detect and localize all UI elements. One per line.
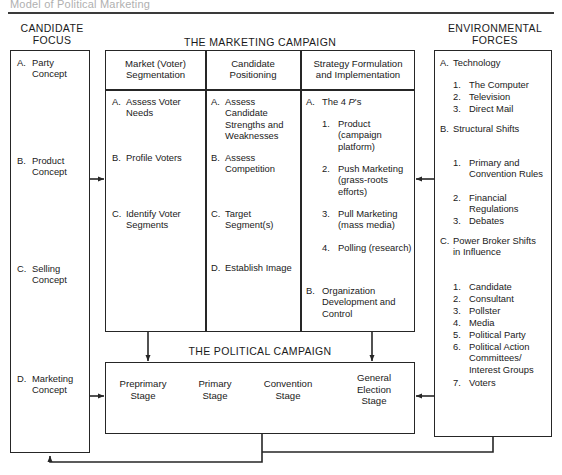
stage-general-election: General Election Stage bbox=[344, 372, 404, 407]
env-group-b-sub-2-label: 2. bbox=[453, 192, 461, 203]
candidate-positioning-item-d-label: D. bbox=[211, 262, 220, 273]
stage-preprimary-line2: Stage bbox=[110, 390, 176, 402]
political-campaign-header-text: THE POLITICAL CAMPAIGN bbox=[105, 345, 415, 357]
strategy-subitem-4-text: Polling (research) bbox=[338, 242, 414, 253]
env-group-a-sub-1-text: The Computer bbox=[469, 79, 551, 90]
env-group-c-sub-5: 5. Political Party bbox=[453, 329, 551, 340]
market-segmentation-item-a-text: Assess Voter Needs bbox=[126, 96, 202, 119]
candidate-positioning-item-a-label: A. bbox=[211, 96, 220, 107]
env-group-b-sub-1-text: Primary and Convention Rules bbox=[469, 157, 551, 180]
env-group-b-sub-1: 1. Primary and Convention Rules bbox=[453, 157, 551, 180]
marketing-campaign-divider-1 bbox=[205, 50, 207, 332]
environmental-forces-header-line1: ENVIRONMENTAL bbox=[432, 22, 558, 34]
env-group-b: B. Structural Shifts bbox=[440, 123, 542, 134]
candidate-focus-item-selling-label: C. bbox=[17, 263, 26, 274]
env-group-b-sub-1-label: 1. bbox=[453, 157, 461, 168]
page-caption: Model of Political Marketing bbox=[10, 0, 430, 10]
strategy-item-a: A. The 4 P's bbox=[306, 96, 412, 107]
column-market-segmentation-title-line1: Market (Voter) bbox=[107, 58, 204, 69]
env-group-c-sub-4-label: 4. bbox=[453, 317, 461, 328]
env-group-b-sub-3: 3. Debates bbox=[453, 215, 551, 226]
candidate-positioning-item-b: B. Assess Competition bbox=[211, 152, 295, 175]
strategy-subitem-3-label: 3. bbox=[322, 208, 330, 219]
marketing-campaign-header-text: THE MARKETING CAMPAIGN bbox=[105, 36, 415, 48]
env-group-b-sub-3-text: Debates bbox=[469, 215, 551, 226]
env-group-b-text: Structural Shifts bbox=[453, 123, 542, 134]
market-segmentation-item-c-label: C. bbox=[112, 208, 121, 219]
stage-general-election-line1: General bbox=[344, 372, 404, 384]
stage-primary: Primary Stage bbox=[186, 378, 244, 401]
market-segmentation-item-b: B. Profile Voters bbox=[112, 152, 202, 163]
candidate-focus-header: CANDIDATE FOCUS bbox=[6, 22, 98, 46]
candidate-positioning-item-b-label: B. bbox=[211, 152, 220, 163]
marketing-campaign-header: THE MARKETING CAMPAIGN bbox=[105, 36, 415, 48]
strategy-item-b: B. Organization Development and Control bbox=[306, 285, 410, 319]
marketing-campaign-divider-2 bbox=[300, 50, 302, 332]
strategy-subitem-2-label: 2. bbox=[322, 163, 330, 174]
top-rule bbox=[8, 12, 554, 14]
market-segmentation-item-c: C. Identify Voter Segments bbox=[112, 208, 202, 231]
candidate-focus-item-product-text: Product Concept bbox=[32, 155, 89, 178]
column-market-segmentation-title-line2: Segmentation bbox=[107, 69, 204, 80]
candidate-positioning-item-c: C. Target Segment(s) bbox=[211, 208, 295, 231]
feedback-loop-environment bbox=[262, 437, 493, 452]
market-segmentation-item-a: A. Assess Voter Needs bbox=[112, 96, 202, 119]
market-segmentation-item-a-label: A. bbox=[112, 96, 121, 107]
candidate-focus-item-selling-text: Selling Concept bbox=[32, 263, 89, 286]
env-group-a-sub-3-text: Direct Mail bbox=[469, 103, 551, 114]
env-group-c-sub-5-text: Political Party bbox=[469, 329, 551, 340]
strategy-item-a-text-post: 's bbox=[355, 96, 361, 107]
column-strategy-formulation-title-line1: Strategy Formulation bbox=[302, 58, 414, 69]
diagram-root: Model of Political Marketing CANDIDATE F… bbox=[0, 0, 562, 475]
stage-convention-line2: Stage bbox=[254, 390, 322, 402]
env-group-c-sub-3: 3. Pollster bbox=[453, 305, 551, 316]
column-market-segmentation-title: Market (Voter) Segmentation bbox=[107, 58, 204, 81]
stage-preprimary-line1: Preprimary bbox=[110, 378, 176, 390]
market-segmentation-item-c-text: Identify Voter Segments bbox=[126, 208, 202, 231]
market-segmentation-item-b-text: Profile Voters bbox=[126, 152, 202, 163]
env-group-c-sub-2: 2. Consultant bbox=[453, 293, 551, 304]
column-candidate-positioning-title-line1: Candidate bbox=[207, 58, 299, 69]
env-group-c-sub-2-text: Consultant bbox=[469, 293, 551, 304]
strategy-subitem-3-text: Pull Marketing (mass media) bbox=[338, 208, 414, 231]
column-strategy-formulation-title: Strategy Formulation and Implementation bbox=[302, 58, 414, 81]
env-group-c-sub-6-text: Political Action Committees/ Interest Gr… bbox=[469, 341, 551, 375]
env-group-c-sub-5-label: 5. bbox=[453, 329, 461, 340]
candidate-focus-item-party-label: A. bbox=[17, 57, 26, 68]
env-group-b-label: B. bbox=[440, 123, 449, 134]
env-group-a-sub-2-text: Television bbox=[469, 91, 551, 102]
candidate-focus-item-party-text: Party Concept bbox=[32, 57, 89, 80]
marketing-campaign-header-divider bbox=[105, 89, 415, 91]
env-group-c-text: Power Broker Shifts in Influence bbox=[453, 235, 544, 258]
env-group-c-sub-7-label: 7. bbox=[453, 377, 461, 388]
strategy-subitem-2-text: Push Marketing (grass-roots efforts) bbox=[338, 163, 414, 197]
env-group-c-sub-2-label: 2. bbox=[453, 293, 461, 304]
column-candidate-positioning-title: Candidate Positioning bbox=[207, 58, 299, 81]
env-group-c-sub-1: 1. Candidate bbox=[453, 281, 551, 292]
strategy-subitem-4-label: 4. bbox=[322, 242, 330, 253]
env-group-a-text: Technology bbox=[453, 57, 550, 68]
strategy-subitem-1-label: 1. bbox=[322, 118, 330, 129]
env-group-c-sub-3-label: 3. bbox=[453, 305, 461, 316]
political-campaign-header: THE POLITICAL CAMPAIGN bbox=[105, 345, 415, 357]
env-group-c-sub-7-text: Voters bbox=[469, 377, 551, 388]
env-group-c-sub-7: 7. Voters bbox=[453, 377, 551, 388]
stage-primary-line2: Stage bbox=[186, 390, 244, 402]
column-strategy-formulation-title-line2: and Implementation bbox=[302, 69, 414, 80]
strategy-item-b-text: Organization Development and Control bbox=[322, 285, 410, 319]
candidate-focus-header-line1: CANDIDATE bbox=[6, 22, 98, 34]
env-group-c-sub-1-label: 1. bbox=[453, 281, 461, 292]
candidate-focus-header-line2: FOCUS bbox=[6, 34, 98, 46]
stage-general-election-line2: Election bbox=[344, 384, 404, 396]
candidate-focus-item-party: A. Party Concept bbox=[17, 57, 89, 80]
candidate-focus-item-selling: C. Selling Concept bbox=[17, 263, 89, 286]
env-group-c-sub-3-text: Pollster bbox=[469, 305, 551, 316]
column-candidate-positioning-title-line2: Positioning bbox=[207, 69, 299, 80]
stage-preprimary: Preprimary Stage bbox=[110, 378, 176, 401]
strategy-subitem-4: 4. Polling (research) bbox=[322, 242, 414, 253]
env-group-c-sub-6: 6. Political Action Committees/ Interest… bbox=[453, 341, 551, 375]
strategy-subitem-1: 1. Product (campaign platform) bbox=[322, 118, 414, 152]
candidate-focus-item-product: B. Product Concept bbox=[17, 155, 89, 178]
stage-convention-line1: Convention bbox=[254, 378, 322, 390]
env-group-c-sub-1-text: Candidate bbox=[469, 281, 551, 292]
